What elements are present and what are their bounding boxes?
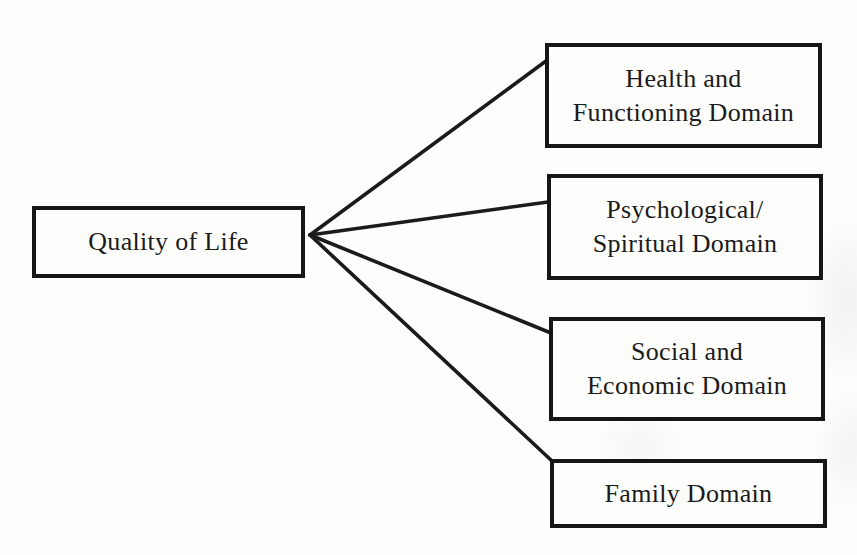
connector-line-family bbox=[310, 235, 552, 461]
connector-line-social-economic bbox=[310, 235, 551, 333]
node-psychological-spiritual-domain: Psychological/ Spiritual Domain bbox=[547, 174, 823, 280]
diagram-canvas: Quality of Life Health and Functioning D… bbox=[0, 0, 857, 555]
node-family-domain-label: Family Domain bbox=[605, 477, 773, 511]
node-family-domain: Family Domain bbox=[550, 459, 827, 528]
node-health-functioning-domain: Health and Functioning Domain bbox=[545, 43, 822, 148]
node-health-functioning-domain-label: Health and Functioning Domain bbox=[573, 62, 794, 130]
node-quality-of-life: Quality of Life bbox=[32, 206, 305, 278]
node-social-economic-domain: Social and Economic Domain bbox=[549, 317, 825, 421]
node-quality-of-life-label: Quality of Life bbox=[88, 225, 248, 259]
node-psychological-spiritual-domain-label: Psychological/ Spiritual Domain bbox=[593, 193, 778, 261]
node-social-economic-domain-label: Social and Economic Domain bbox=[587, 335, 787, 403]
